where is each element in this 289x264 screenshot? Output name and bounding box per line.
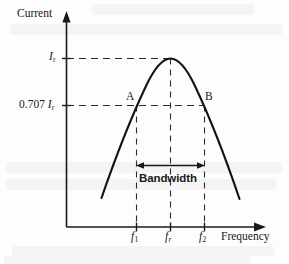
point-label-b: B — [205, 91, 213, 103]
x-axis-label: Frequency — [221, 231, 270, 243]
half-power-subscript: r — [52, 103, 55, 112]
x-tick-fr-subscript: r — [168, 235, 171, 244]
x-tick-f1-subscript: 1 — [134, 235, 138, 244]
x-tick-f2-subscript: 2 — [202, 235, 206, 244]
resonance-curve-figure — [0, 0, 289, 264]
x-tick-label-f1: f1 — [131, 231, 138, 243]
y-axis — [62, 11, 70, 227]
y-tick-peak-subscript: r — [53, 55, 56, 64]
point-label-a: A — [126, 91, 134, 103]
y-tick-label-half-power: 0.707 Ir — [19, 99, 54, 111]
x-tick-label-f2: f2 — [199, 231, 206, 243]
y-tick-label-peak-current: Ir — [49, 51, 56, 63]
figure-page: Current Frequency Ir 0.707 Ir A B Bandwi… — [0, 0, 289, 264]
x-tick-label-fr: fr — [165, 231, 171, 243]
bandwidth-label: Bandwidth — [139, 173, 197, 185]
half-power-coefficient: 0.707 — [19, 98, 48, 110]
y-axis-label: Current — [17, 8, 52, 20]
